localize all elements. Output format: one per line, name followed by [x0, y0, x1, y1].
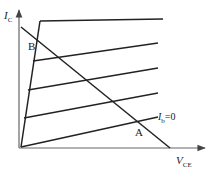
characteristic-curve [24, 93, 158, 118]
characteristic-curve [28, 68, 158, 90]
characteristics-diagram: IC VCE B A Ib=0 [0, 0, 217, 173]
characteristic-curve [40, 19, 163, 21]
y-axis-label: IC [3, 9, 13, 24]
point-b-label: B [28, 40, 35, 52]
point-a-label: A [135, 126, 143, 138]
x-axis-label: VCE [176, 154, 192, 169]
ib-zero-label: Ib=0 [157, 111, 175, 125]
